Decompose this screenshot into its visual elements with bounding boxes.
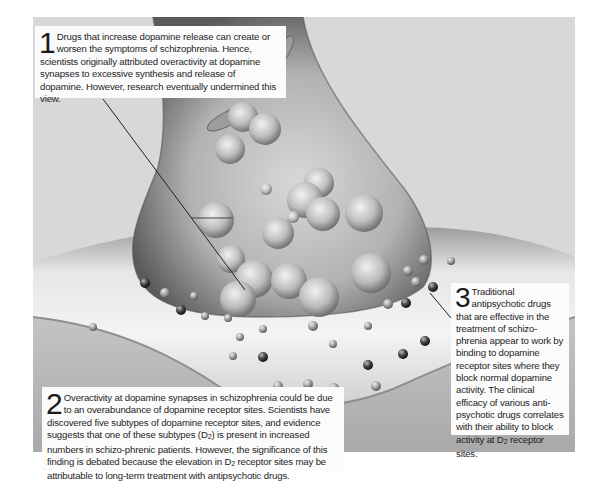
callout-3-text: Traditional antipsychotic drugs that are… [456,286,565,460]
callout-2: 2 Overactivity at dopamine synapses in s… [42,387,344,471]
callout-3: 3 Traditional antipsychotic drugs that a… [451,283,569,435]
callout-3-text-part-1: Traditional antipsychotic drugs that are… [456,286,564,445]
callout-1-number: 1 [39,32,55,54]
callout-2-text: Overactivity at dopamine synapses in sch… [47,392,338,483]
callout-3-number: 3 [455,287,470,309]
callout-1-text: Drugs that increase dopamine release can… [40,31,280,105]
callout-1: 1 Drugs that increase dopamine release c… [35,26,286,98]
callout-2-number: 2 [46,393,62,415]
